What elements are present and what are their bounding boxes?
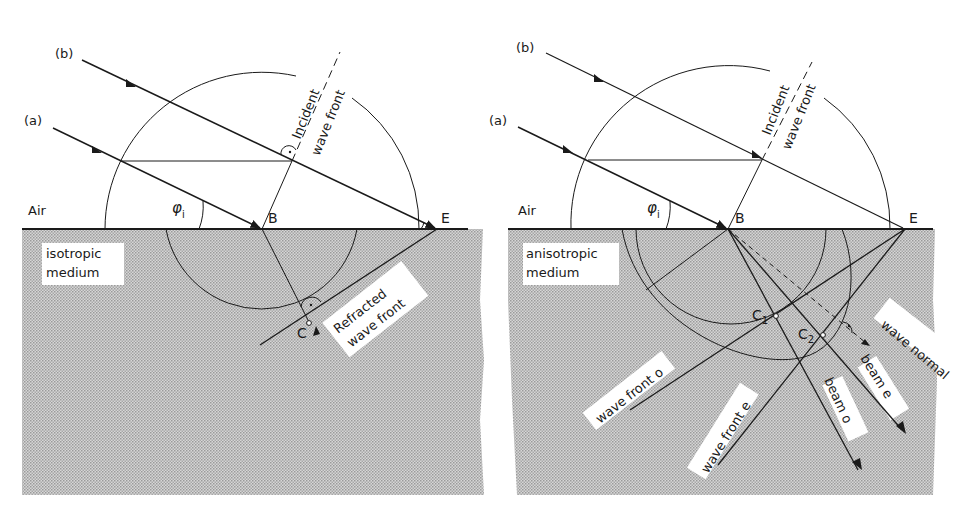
ray-b-arrowhead-2 bbox=[752, 150, 762, 158]
medium-label-line1: isotropic bbox=[46, 246, 101, 261]
panel-anisotropic: (b) (a) Air φi B E C1 C2 anisotropic med… bbox=[489, 40, 965, 495]
angle-phi-arc bbox=[199, 201, 203, 229]
right-angle-dot-normal bbox=[848, 325, 850, 327]
ray-b-arrowhead bbox=[126, 79, 136, 87]
upper-huygens-arc-right bbox=[352, 98, 419, 229]
air-label: Air bbox=[28, 203, 47, 218]
refraction-diagram: (b) (a) Air φi B E C isotropic medium In… bbox=[0, 0, 979, 517]
ray-b-arrowhead bbox=[594, 74, 604, 82]
incident-ray-a bbox=[53, 128, 260, 228]
ray-b-label: (b) bbox=[516, 40, 534, 55]
incident-ray-a bbox=[518, 127, 726, 228]
point-c-marker bbox=[307, 321, 312, 326]
incident-wave-front bbox=[728, 160, 762, 229]
incident-ray-b bbox=[82, 60, 435, 228]
air-label: Air bbox=[518, 203, 537, 218]
point-c-label: C bbox=[297, 325, 307, 341]
right-angle-dot bbox=[289, 151, 291, 153]
point-b-label: B bbox=[735, 210, 745, 226]
angle-arc-e bbox=[421, 222, 424, 229]
ray-a-arrowhead bbox=[92, 146, 102, 153]
ray-a-arrowhead bbox=[563, 145, 573, 153]
medium-label-line2: medium bbox=[46, 265, 99, 280]
point-e-label: E bbox=[909, 210, 918, 226]
upper-huygens-arc bbox=[105, 72, 296, 229]
angle-phi-label: φi bbox=[647, 199, 660, 220]
right-angle-dot-c bbox=[310, 304, 312, 306]
ray-a-label: (a) bbox=[489, 113, 507, 128]
ray-b-label: (b) bbox=[55, 46, 73, 61]
medium-label-line1: anisotropic bbox=[526, 246, 598, 261]
ray-a-label: (a) bbox=[24, 113, 42, 128]
medium-label-line2: medium bbox=[526, 265, 579, 280]
point-e-label: E bbox=[441, 210, 450, 226]
angle-phi-label: φi bbox=[172, 199, 185, 220]
panel-isotropic: (b) (a) Air φi B E C isotropic medium In… bbox=[22, 46, 484, 495]
point-c1-marker bbox=[774, 314, 779, 319]
right-angle-mark-incident bbox=[281, 146, 296, 155]
point-c2-marker bbox=[821, 333, 826, 338]
upper-huygens-arc-right bbox=[824, 98, 890, 229]
point-b-label: B bbox=[268, 210, 278, 226]
angle-phi-arc bbox=[666, 201, 670, 229]
